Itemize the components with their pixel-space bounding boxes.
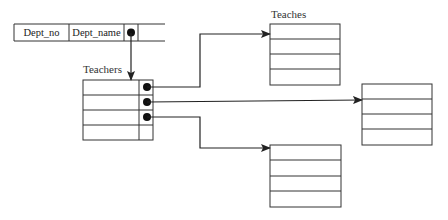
teaches-table-label: Teaches	[271, 8, 306, 20]
dept-name-field: Dept_name	[69, 24, 124, 41]
teachers-to-bottom-table-arrow	[147, 117, 270, 148]
teachers-table-label: Teachers	[83, 63, 122, 75]
teachers-to-teaches-arrow	[147, 34, 270, 87]
dept-no-field: Dept_no	[14, 24, 69, 41]
teachers-table	[83, 80, 153, 140]
teachers-to-right-table-arrow	[147, 100, 362, 102]
teaches-table	[270, 24, 340, 85]
right-table	[362, 84, 432, 145]
bottom-table	[270, 145, 341, 207]
